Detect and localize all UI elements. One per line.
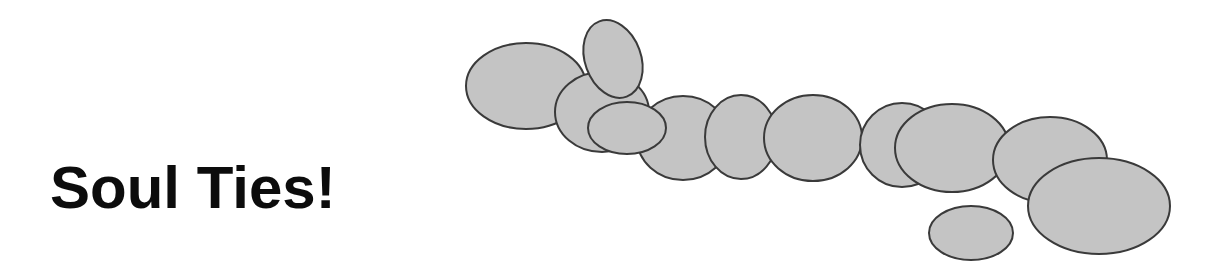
ellipse-shape-e12	[929, 206, 1013, 260]
ellipse-cluster-illustration	[0, 0, 1224, 272]
ellipse-group	[466, 12, 1170, 260]
ellipse-shape-e9	[895, 104, 1009, 192]
ellipse-shape-e7	[764, 95, 862, 181]
ellipse-shape-e4	[588, 102, 666, 154]
ellipse-shape-e11	[1028, 158, 1170, 254]
